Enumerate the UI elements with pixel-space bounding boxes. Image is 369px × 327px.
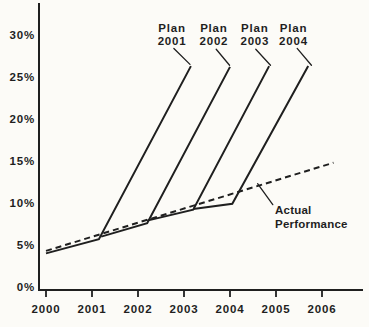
y-axis-label-0pct: 0% xyxy=(17,281,35,293)
plan-2001-line xyxy=(46,66,191,253)
y-axis-label-10pct: 10% xyxy=(10,197,35,209)
actual-performance-leader-line xyxy=(258,184,273,205)
actual-performance-label-line-2: Performance xyxy=(275,218,348,230)
plan-2001-label-line-1: Plan xyxy=(158,22,186,34)
x-axis-label-2005: 2005 xyxy=(262,303,291,315)
plan-2001-leader-line xyxy=(174,48,190,64)
plan-2004-label-line-2: 2004 xyxy=(279,35,308,47)
y-axis-label-25pct: 25% xyxy=(10,71,35,83)
y-axis-label-15pct: 15% xyxy=(10,155,35,167)
x-axis-label-2000: 2000 xyxy=(32,303,61,315)
y-axis-label-20pct: 20% xyxy=(10,113,35,125)
plan-2002-label-line-2: 2002 xyxy=(200,35,229,47)
hockey-stick-forecast-figure: 20002001200220032004200520060%5%10%15%20… xyxy=(0,0,369,327)
x-axis-label-2002: 2002 xyxy=(124,303,153,315)
plan-2003-label-line-1: Plan xyxy=(241,22,269,34)
x-axis-label-2006: 2006 xyxy=(308,303,337,315)
chart-canvas: 20002001200220032004200520060%5%10%15%20… xyxy=(0,0,369,327)
plan-2001-label-line-2: 2001 xyxy=(158,35,187,47)
plan-2004-label-line-1: Plan xyxy=(280,22,308,34)
plan-2004-leader-line xyxy=(297,48,311,65)
plan-2003-leader-line xyxy=(256,49,271,65)
y-axis-label-30pct: 30% xyxy=(10,29,35,41)
plan-2003-line xyxy=(147,66,269,221)
plan-2003-label-line-2: 2003 xyxy=(240,35,269,47)
plan-2002-label-line-1: Plan xyxy=(200,22,228,34)
x-axis-label-2003: 2003 xyxy=(170,303,199,315)
actual-performance-label-line-1: Actual xyxy=(275,204,311,216)
plan-2002-line xyxy=(101,67,230,237)
plan-2002-leader-line xyxy=(216,49,229,65)
x-axis-label-2001: 2001 xyxy=(78,303,107,315)
y-axis-label-5pct: 5% xyxy=(17,239,35,251)
x-axis-label-2004: 2004 xyxy=(216,303,245,315)
